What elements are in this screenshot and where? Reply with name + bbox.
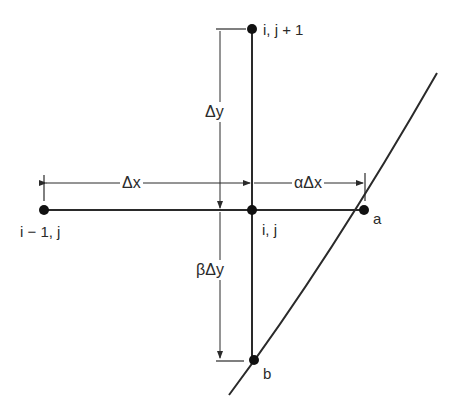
label-node-a: a <box>373 211 381 226</box>
node-i-j <box>247 205 257 215</box>
diagram-canvas: Δx αΔx Δy βΔy i, j + 1 i − 1, j i, j a b <box>0 0 458 408</box>
label-node-b: b <box>263 366 271 381</box>
label-node-i-j: i, j <box>262 222 277 237</box>
label-dx: Δx <box>120 175 143 191</box>
node-i-minus-1-j <box>39 205 49 215</box>
label-adx: αΔx <box>292 175 324 191</box>
boundary-curve <box>229 73 437 395</box>
label-node-i-j-plus-1: i, j + 1 <box>263 22 303 37</box>
diagram-graphics <box>0 0 458 408</box>
node-b <box>249 355 259 365</box>
label-dy: Δy <box>204 102 225 122</box>
node-a <box>359 205 369 215</box>
label-bdy: βΔy <box>195 260 225 280</box>
label-node-i-minus-1-j: i − 1, j <box>20 224 60 239</box>
node-i-j-plus-1 <box>247 24 257 34</box>
